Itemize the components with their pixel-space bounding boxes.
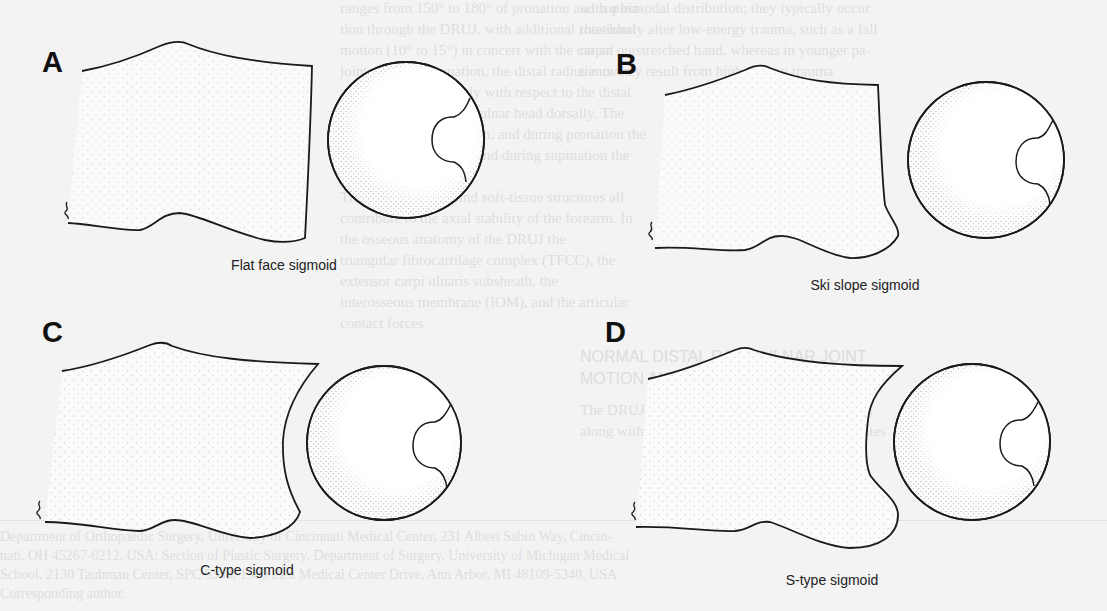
squiggle-mark-d xyxy=(632,502,635,520)
squiggle-mark-a xyxy=(65,202,68,219)
panel-b-drawing xyxy=(649,66,1064,259)
squiggle-mark-b xyxy=(649,222,652,240)
caption-b: Ski slope sigmoid xyxy=(811,278,920,292)
caption-a: Flat face sigmoid xyxy=(231,258,337,272)
panel-label-a: A xyxy=(42,48,63,77)
panel-a-drawing xyxy=(65,42,484,242)
panel-label-d: D xyxy=(605,318,626,347)
panel-c-drawing xyxy=(37,343,461,538)
panel-label-c: C xyxy=(42,318,63,347)
panel-d-drawing xyxy=(632,348,1050,548)
sigmoid-notch-figure xyxy=(0,0,1107,611)
caption-c: C-type sigmoid xyxy=(200,563,293,577)
squiggle-mark-c xyxy=(37,501,40,519)
panel-label-b: B xyxy=(616,50,637,79)
caption-d: S-type sigmoid xyxy=(786,573,879,587)
